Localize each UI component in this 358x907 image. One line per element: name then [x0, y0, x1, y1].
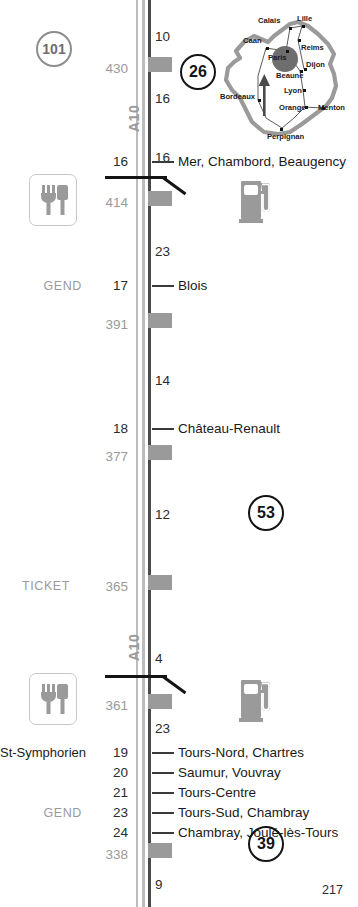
segment-distance: 23	[155, 722, 170, 736]
motorway-label-a10: A10	[126, 105, 142, 132]
fuel-icon	[239, 175, 275, 225]
exit-tick	[152, 792, 174, 794]
restaurant-glyph	[30, 175, 76, 225]
road-atlas-page: A10A104304143913773653613381016162314124…	[0, 0, 358, 907]
exit-number: 19	[88, 746, 128, 760]
rest-area-ramp	[162, 675, 186, 694]
map-city-dot-calais	[289, 27, 292, 30]
fuel-icon	[239, 674, 275, 724]
service-area-marker	[148, 313, 172, 328]
motorway-label-a10: A10	[126, 634, 142, 661]
page-badge-39: 39	[248, 826, 284, 862]
exit-tick	[152, 428, 174, 430]
segment-distance: 23	[155, 245, 170, 259]
map-city-dot-dijon	[304, 68, 307, 71]
fuel-pump-glyph	[239, 674, 275, 724]
map-city-dot-bordeaux	[258, 99, 261, 102]
map-city-dot-beaune	[300, 70, 303, 73]
exit-destination: Saumur, Vouvray	[178, 766, 281, 780]
france-overview-map: CalaisLilleCaanReimsParisDijonBeauneBord…	[206, 6, 356, 146]
map-city-dot-paris	[286, 50, 289, 53]
exit-tick	[152, 161, 174, 163]
service-area-marker	[148, 575, 172, 590]
exit-number: 18	[88, 422, 128, 436]
map-city-label-caan: Caan	[243, 36, 262, 45]
exit-tick	[152, 752, 174, 754]
segment-distance: 9	[155, 878, 163, 892]
exit-side-place: St-Symphorien	[0, 746, 84, 759]
map-city-dot-lille	[302, 25, 305, 28]
segment-distance: 16	[155, 92, 170, 106]
exit-number: 23	[88, 806, 128, 820]
exit-destination: Tours-Centre	[178, 786, 256, 800]
map-city-label-calais: Calais	[258, 16, 280, 25]
direction-arrow	[259, 74, 270, 116]
exit-number: 20	[88, 766, 128, 780]
exit-destination: Tours-Sud, Chambray	[178, 806, 309, 820]
page-number: 217	[322, 884, 343, 897]
restaurant-icon	[29, 673, 77, 725]
exit-destination: Blois	[178, 279, 207, 293]
service-area-marker	[148, 445, 172, 460]
service-area-marker	[148, 57, 172, 72]
map-city-label-perpignan: Perpignan	[267, 132, 304, 141]
exit-number: 24	[88, 826, 128, 840]
service-area-marker	[148, 191, 172, 206]
kilometre-marker: 377	[88, 450, 128, 464]
segment-distance: 12	[155, 508, 170, 522]
map-city-dot-reims	[298, 39, 301, 42]
exit-number: 16	[88, 155, 128, 169]
exit-tick	[152, 832, 174, 834]
exit-tick	[152, 285, 174, 287]
exit-destination: Château-Renault	[178, 422, 280, 436]
map-city-dot-orange	[305, 106, 308, 109]
map-city-dot-menton	[322, 107, 325, 110]
page-badge-101: 101	[36, 31, 72, 67]
map-city-label-bordeaux: Bordeaux	[220, 92, 255, 101]
exit-number: 21	[88, 786, 128, 800]
kilometre-marker: 391	[88, 318, 128, 332]
fuel-pump-glyph	[239, 175, 275, 225]
kilometre-marker: 414	[88, 196, 128, 210]
map-city-dot-perpignan	[280, 128, 283, 131]
kilometre-marker: 361	[88, 699, 128, 713]
map-city-label-reims: Reims	[301, 43, 324, 52]
exit-tick	[152, 812, 174, 814]
map-city-label-lille: Lille	[297, 14, 312, 23]
segment-distance: 14	[155, 374, 170, 388]
map-city-label-lyon: Lyon	[284, 86, 302, 95]
restaurant-icon	[29, 174, 77, 226]
map-city-label-paris: Paris	[268, 53, 287, 62]
exit-destination: Tours-Nord, Chartres	[178, 746, 304, 760]
service-area-marker	[148, 694, 172, 709]
kilometre-marker: 430	[88, 62, 128, 76]
page-badge-53: 53	[248, 495, 284, 531]
ticket-label: TICKET	[22, 580, 84, 593]
kilometre-marker: 338	[88, 848, 128, 862]
exit-number: 17	[88, 279, 128, 293]
segment-distance: 4	[155, 652, 163, 666]
gendarmerie-label: GEND	[20, 807, 82, 820]
exit-destination: Mer, Chambord, Beaugency	[178, 155, 346, 169]
kilometre-marker: 365	[88, 580, 128, 594]
map-city-dot-caan	[266, 47, 269, 50]
service-area-marker	[148, 843, 172, 858]
map-city-label-orange: Orange	[279, 103, 306, 112]
rest-area-bar	[105, 675, 167, 678]
rest-area-bar	[105, 176, 167, 179]
map-city-label-dijon: Dijon	[306, 60, 325, 69]
segment-distance: 10	[155, 30, 170, 44]
exit-tick	[152, 772, 174, 774]
motorway-line-inner	[138, 0, 142, 907]
map-city-dot-lyon	[303, 89, 306, 92]
gendarmerie-label: GEND	[20, 280, 82, 293]
restaurant-glyph	[30, 674, 76, 724]
